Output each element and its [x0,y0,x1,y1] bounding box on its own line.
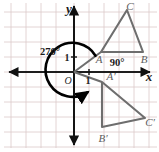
coordinate-plane-svg: y x O 1 1 270° 90° A B C A′ B′ C′ [0,0,159,152]
vertex-label-c-prime: C′ [145,116,155,128]
vertex-label-a-prime: A′ [105,70,116,82]
vertex-label-b: B [141,53,148,65]
vertex-label-c: C [126,0,134,12]
origin-label: O [64,75,71,86]
x-unit-label: 1 [86,75,91,86]
rotation-angle-label: 270° [40,46,60,57]
interior-angle-label: 90° [110,57,125,68]
vertex-label-a: A [95,53,103,65]
y-unit-label: 1 [65,52,70,63]
rotation-figure: y x O 1 1 270° 90° A B C A′ B′ C′ [0,0,159,152]
figure-background [0,0,159,152]
y-axis-label: y [64,1,72,16]
vertex-label-b-prime: B′ [98,132,108,144]
x-axis-label: x [145,69,153,84]
